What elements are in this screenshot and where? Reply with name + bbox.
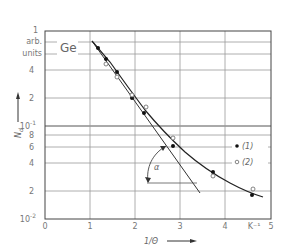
ytick-4-lower: 4: [29, 159, 34, 168]
ytick-4-upper: 4: [29, 66, 34, 75]
legend-marker-open: [235, 160, 239, 164]
y-axis-label: Nd: [14, 92, 24, 138]
xtick-5: 5: [268, 222, 273, 231]
svg-text:1/Θ: 1/Θ: [144, 237, 159, 246]
ytick-2-upper: 2: [29, 94, 34, 103]
y-unit-line1: arb.: [26, 37, 42, 46]
ytick-6: 6: [29, 143, 34, 152]
chart: α Ge (1) (2) 1 arb. units 4 2 10-1 8 6 4…: [0, 0, 285, 251]
x-arrow-icon: [190, 239, 197, 243]
y-arrow-icon: [16, 92, 20, 99]
xtick-0: 0: [42, 222, 47, 231]
alpha-label: α: [154, 163, 160, 172]
xtick-2: 2: [132, 222, 137, 231]
x-tick-labels: 0 1 2 3 4 K⁻¹ 5: [42, 222, 273, 231]
xtick-3: 3: [177, 222, 182, 231]
ytick-8: 8: [29, 131, 34, 140]
svg-text:Nd: Nd: [14, 128, 24, 138]
legend-marker-filled: [235, 144, 239, 148]
y-tick-labels: 1 arb. units 4 2 10-1 8 6 4 2 10-2: [20, 26, 42, 224]
series-1-points: [96, 46, 254, 197]
legend-label-1: (1): [242, 142, 253, 151]
ytick-1: 1: [33, 26, 38, 35]
fit-curve: [92, 41, 263, 197]
ytick-2-lower: 2: [29, 187, 34, 196]
arc-arrowhead-top: [160, 146, 166, 151]
material-label: Ge: [60, 41, 77, 55]
ytick-10-2: 10-2: [20, 212, 36, 224]
xtick-1: 1: [87, 222, 92, 231]
legend-label-2: (2): [242, 158, 253, 167]
y-unit-line2: units: [22, 49, 42, 58]
x-axis-label: 1/Θ: [144, 237, 197, 246]
xtick-4: 4: [222, 222, 227, 231]
arc-arrowhead-bottom: [145, 177, 151, 183]
x-unit: K⁻¹: [248, 222, 261, 231]
legend: (1) (2): [235, 142, 253, 167]
